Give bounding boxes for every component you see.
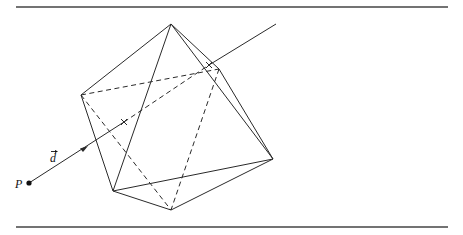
direction-d-label: d [50, 151, 57, 165]
point-p-dot [26, 180, 31, 185]
entry-cross-icon [121, 119, 127, 125]
octahedron-visible-edges [81, 24, 273, 210]
ray-outgoing [209, 24, 276, 65]
ray [26, 24, 276, 186]
octahedron-ray-diagram: P d [0, 0, 463, 235]
ray-incoming [29, 122, 124, 183]
point-p-label: P [14, 177, 23, 191]
exit-cross-icon [206, 62, 212, 68]
direction-arrowhead-icon [80, 146, 88, 152]
vector-arrow-tip-icon [55, 150, 58, 153]
octahedron-hidden-edges [81, 65, 219, 210]
